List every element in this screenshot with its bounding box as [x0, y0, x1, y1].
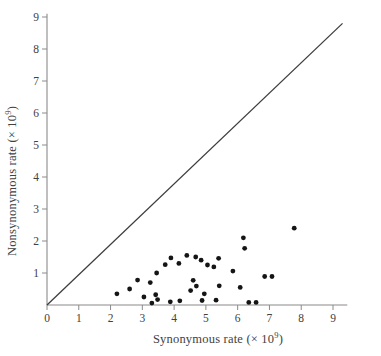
x-tick-label: 4	[171, 312, 177, 324]
data-point	[254, 300, 259, 305]
dn-ds-scatter-chart: 0123456789 123456789 Synonymous rate (× …	[0, 0, 381, 356]
x-tick-label: 7	[267, 312, 273, 324]
data-point	[270, 274, 275, 279]
data-point	[155, 297, 160, 302]
data-point	[202, 291, 207, 296]
data-point	[211, 265, 216, 270]
data-point	[184, 253, 189, 258]
x-axis-label: Synonymous rate (× 109)	[153, 330, 283, 346]
y-tick-label: 3	[33, 203, 39, 215]
data-points	[115, 226, 297, 306]
x-tick-label: 5	[203, 312, 209, 324]
x-tick-label: 8	[298, 312, 304, 324]
y-tick-label: 4	[33, 171, 39, 183]
data-point	[242, 246, 247, 251]
data-point	[142, 295, 147, 300]
x-axis-ticks: 0123456789	[44, 305, 336, 324]
data-point	[246, 300, 251, 305]
data-point	[135, 278, 140, 283]
scatter-figure: 0123456789 123456789 Synonymous rate (× …	[0, 0, 381, 356]
data-point	[168, 299, 173, 304]
y-tick-label: 7	[33, 75, 39, 87]
data-point	[115, 291, 120, 296]
x-tick-label: 1	[76, 312, 82, 324]
data-point	[127, 287, 132, 292]
data-point	[216, 256, 221, 261]
data-point	[148, 280, 153, 285]
x-tick-label: 9	[330, 312, 336, 324]
data-point	[214, 298, 219, 303]
data-point	[262, 274, 267, 279]
data-point	[153, 292, 158, 297]
x-tick-label: 2	[108, 312, 114, 324]
data-point	[200, 298, 205, 303]
data-point	[169, 256, 174, 261]
y-tick-label: 5	[33, 139, 39, 151]
y-tick-label: 1	[33, 267, 39, 279]
data-point	[241, 235, 246, 240]
data-point	[231, 269, 236, 274]
y-tick-label: 9	[33, 11, 39, 23]
data-point	[292, 226, 297, 231]
x-tick-label: 6	[235, 312, 241, 324]
data-point	[149, 301, 154, 306]
data-point	[188, 288, 193, 293]
y-tick-label: 2	[33, 235, 39, 247]
data-point	[205, 263, 210, 268]
data-point	[199, 258, 204, 263]
data-point	[154, 271, 159, 276]
x-tick-label: 3	[139, 312, 145, 324]
data-point	[194, 284, 199, 289]
data-point	[176, 261, 181, 266]
data-point	[177, 298, 182, 303]
data-point	[217, 283, 222, 288]
y-axis-label: Nonsynonymous rate (× 109)	[3, 106, 19, 256]
data-point	[238, 285, 243, 290]
identity-line	[47, 23, 343, 305]
data-point	[163, 262, 168, 267]
y-tick-label: 8	[33, 43, 39, 55]
data-point	[191, 278, 196, 283]
x-tick-label: 0	[44, 312, 50, 324]
y-axis-ticks: 123456789	[33, 11, 47, 279]
y-tick-label: 6	[33, 107, 39, 119]
data-point	[193, 255, 198, 260]
